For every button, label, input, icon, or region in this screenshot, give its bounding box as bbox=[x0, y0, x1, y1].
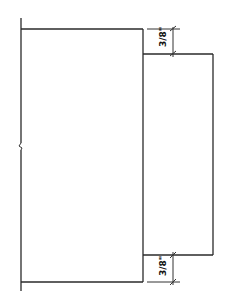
top-dimension-label: 3/8" bbox=[158, 26, 168, 47]
technical-drawing: 3/8" 3/8" bbox=[0, 0, 234, 295]
break-mark bbox=[19, 143, 22, 150]
bottom-dimension-label: 3/8" bbox=[158, 255, 168, 276]
